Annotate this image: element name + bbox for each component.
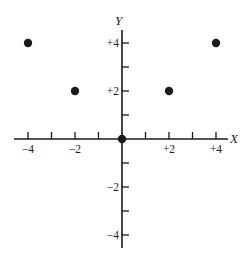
y-tick-label: −4 xyxy=(107,229,119,241)
y-tick-label: −2 xyxy=(107,181,119,193)
data-point xyxy=(165,87,173,95)
data-point xyxy=(118,135,126,143)
x-tick-label: +2 xyxy=(163,143,175,155)
x-axis-label: X xyxy=(229,131,239,146)
x-tick-label: −2 xyxy=(69,143,81,155)
x-tick-label: +4 xyxy=(210,143,222,155)
data-point xyxy=(212,39,220,47)
data-point xyxy=(71,87,79,95)
y-axis-label: Y xyxy=(115,13,124,28)
data-point xyxy=(24,39,32,47)
coordinate-plot: −4−2+2+4+4+2−2−4 X Y xyxy=(0,0,249,264)
y-tick-label: +2 xyxy=(107,85,119,97)
x-tick-label: −4 xyxy=(22,143,34,155)
y-tick-label: +4 xyxy=(107,37,119,49)
